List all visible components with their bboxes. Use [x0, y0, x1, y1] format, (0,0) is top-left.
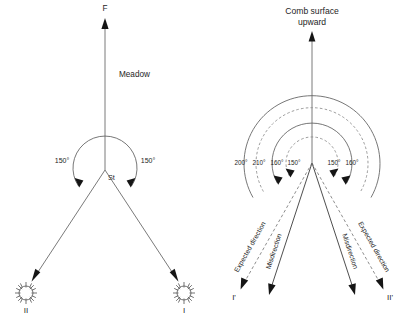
comb-label-expected-left: Expected direction: [233, 220, 268, 273]
sun-icon-one: [173, 282, 195, 304]
meadow-angle-left: 150°: [55, 157, 70, 164]
comb-angle-right-150: 150°: [327, 159, 341, 166]
meadow-north-arrowhead: [101, 18, 108, 29]
diagram-canvas: F Meadow 150° 150° St: [0, 0, 397, 318]
comb-angle-left-210: 210°: [252, 159, 266, 166]
comb-angle-right-160: 160°: [345, 159, 359, 166]
figure-root: F Meadow 150° 150° St: [0, 0, 397, 318]
comb-arc-arrowhead-outer-left: [274, 175, 283, 184]
meadow-area-label: Meadow: [119, 70, 150, 79]
comb-target-label-two-prime: II': [387, 293, 393, 302]
comb-label-misdirection-left: Misdirection: [265, 233, 283, 270]
comb-target-label-one-prime: I': [232, 293, 236, 302]
meadow-ray-to-sun-one: [105, 170, 174, 275]
comb-panel: Comb surface upward 200° 210° 160° 150°: [232, 6, 393, 302]
comb-arc-arrowhead-inner-left: [286, 168, 295, 177]
meadow-arc-arrowhead-left: [75, 178, 84, 188]
comb-ray-misdirection-left-arrowhead: [268, 283, 275, 295]
comb-title-line-2: upward: [298, 17, 326, 27]
comb-arc-arrowhead-outer-right: [341, 175, 350, 184]
sun-one-label: I: [183, 306, 185, 315]
comb-ray-misdirection-right-arrowhead: [348, 283, 355, 295]
comb-title-line-1: Comb surface: [285, 6, 339, 16]
meadow-reference-label: F: [102, 4, 107, 13]
comb-ray-expected-right-arrowhead: [376, 278, 384, 290]
comb-angle-left-150: 150°: [287, 159, 301, 166]
comb-label-expected-right: Expected direction: [356, 220, 391, 273]
sun-two-label: II: [24, 306, 28, 315]
sun-icon-two: [15, 282, 37, 304]
meadow-angle-right: 150°: [141, 157, 156, 164]
comb-angle-left-200: 200°: [234, 159, 248, 166]
comb-arc-arrowhead-inner-right: [329, 168, 338, 177]
meadow-ray-to-sun-two: [36, 170, 105, 275]
comb-ray-expected-left-arrowhead: [241, 278, 249, 290]
meadow-hive-label: St: [108, 173, 115, 182]
comb-angle-left-160: 160°: [270, 159, 284, 166]
comb-up-arrowhead: [309, 31, 316, 42]
meadow-panel: F Meadow 150° 150° St: [15, 4, 195, 315]
meadow-arc-arrowhead-right: [127, 178, 136, 188]
comb-label-misdirection-right: Misdirection: [341, 233, 359, 270]
